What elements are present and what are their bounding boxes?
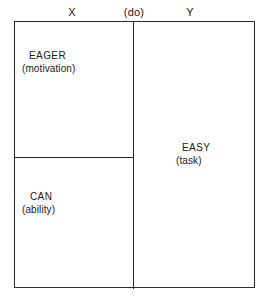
column-label-x: X bbox=[68, 7, 76, 18]
cell-eager: EAGER (motivation) bbox=[22, 49, 75, 75]
vertical-divider-line bbox=[133, 21, 134, 289]
column-label-do: (do) bbox=[124, 7, 144, 18]
cell-eager-title: EAGER bbox=[29, 49, 75, 62]
cell-easy-subtitle: (task) bbox=[176, 154, 210, 167]
cell-easy-title: EASY bbox=[182, 141, 210, 154]
cell-can: CAN (ability) bbox=[22, 190, 55, 216]
cell-can-subtitle: (ability) bbox=[22, 203, 55, 216]
cell-eager-subtitle: (motivation) bbox=[22, 62, 75, 75]
diagram-canvas: X (do) Y EAGER (motivation) CAN (ability… bbox=[0, 0, 268, 301]
cell-easy: EASY (task) bbox=[176, 141, 210, 167]
horizontal-divider-line bbox=[14, 157, 134, 158]
cell-can-title: CAN bbox=[30, 190, 55, 203]
column-label-y: Y bbox=[186, 7, 194, 18]
